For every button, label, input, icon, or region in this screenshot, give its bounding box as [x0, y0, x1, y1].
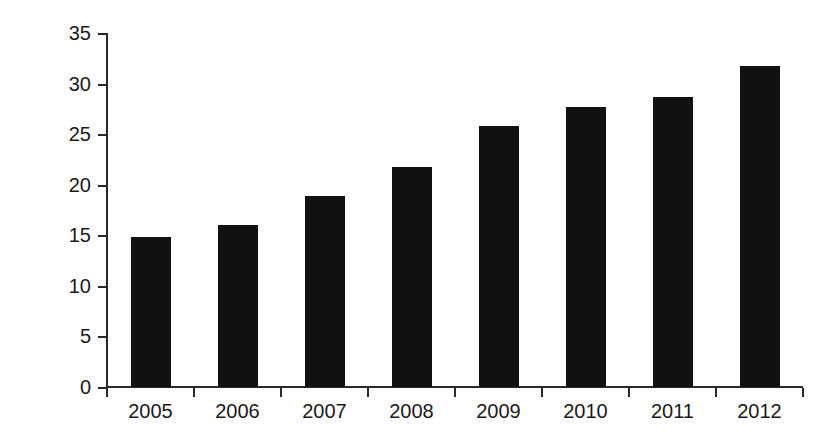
- x-tick-label: 2007: [285, 401, 365, 421]
- x-tick-label: 2008: [372, 401, 452, 421]
- x-tick-label: 2012: [720, 401, 800, 421]
- x-tick-mark: [280, 388, 282, 397]
- x-tick-label: 2009: [459, 401, 539, 421]
- y-tick-mark: [98, 235, 107, 237]
- bar: [653, 97, 693, 387]
- x-tick-label: 2010: [546, 401, 626, 421]
- bar: [566, 107, 606, 387]
- y-tick-mark: [98, 286, 107, 288]
- bar: [479, 126, 519, 387]
- bar: [218, 225, 258, 387]
- y-tick-label: 20: [31, 175, 91, 195]
- x-tick-label: 2005: [111, 401, 191, 421]
- y-tick-label: 0: [31, 377, 91, 397]
- x-tick-mark: [715, 388, 717, 397]
- y-tick-label: 25: [31, 124, 91, 144]
- bar: [305, 196, 345, 387]
- x-tick-mark: [541, 388, 543, 397]
- y-tick-mark: [98, 33, 107, 35]
- y-tick-label: 5: [31, 326, 91, 346]
- y-tick-mark: [98, 134, 107, 136]
- x-tick-mark: [106, 388, 108, 397]
- x-tick-label: 2011: [633, 401, 713, 421]
- y-tick-label: 35: [31, 23, 91, 43]
- y-tick-label: 10: [31, 276, 91, 296]
- y-tick-label: 15: [31, 225, 91, 245]
- bar: [740, 66, 780, 387]
- y-tick-mark: [98, 185, 107, 187]
- y-tick-mark: [98, 336, 107, 338]
- x-tick-mark: [802, 388, 804, 397]
- x-tick-mark: [193, 388, 195, 397]
- x-tick-label: 2006: [198, 401, 278, 421]
- bar-chart: Percentage 05101520253035 20052006200720…: [0, 0, 834, 446]
- x-tick-mark: [454, 388, 456, 397]
- x-tick-mark: [628, 388, 630, 397]
- y-axis-line: [106, 33, 108, 388]
- y-tick-mark: [98, 84, 107, 86]
- y-tick-label: 30: [31, 74, 91, 94]
- x-tick-mark: [367, 388, 369, 397]
- bar: [392, 167, 432, 387]
- bar: [131, 237, 171, 387]
